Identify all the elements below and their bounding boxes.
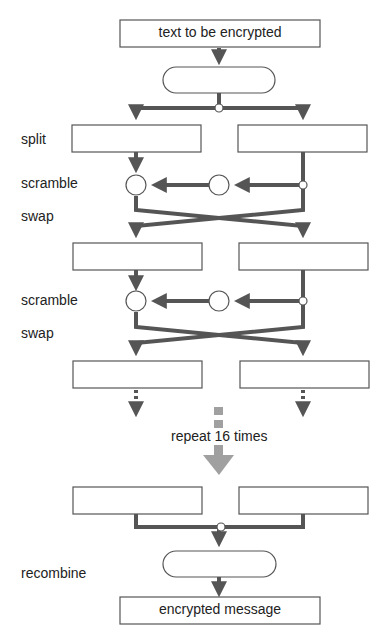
- pill-recombine: [163, 551, 276, 577]
- combine-node: [217, 523, 225, 531]
- right-half-box-final: [239, 487, 368, 514]
- left-half-box-3: [73, 361, 202, 388]
- split-node: [215, 104, 223, 112]
- step-label-recombine: recombine: [21, 565, 86, 581]
- scramble-combine-circle-2: [126, 291, 146, 311]
- pill-initial: [163, 67, 275, 93]
- right-half-box-3: [240, 361, 369, 388]
- flow-diagram: [0, 0, 390, 642]
- right-half-box-2: [239, 243, 368, 270]
- step-label-scramble-2: scramble: [21, 292, 78, 308]
- input-box-label: text to be encrypted: [120, 24, 320, 40]
- scramble-function-circle-1: [209, 175, 229, 195]
- branch-node-1: [299, 181, 307, 189]
- step-label-swap-1: swap: [21, 208, 54, 224]
- left-half-box-1: [72, 125, 201, 152]
- left-half-box-2: [73, 243, 202, 270]
- scramble-combine-circle-1: [126, 175, 146, 195]
- branch-node-2: [299, 297, 307, 305]
- left-half-box-final: [73, 487, 202, 514]
- step-label-swap-2: swap: [21, 325, 54, 341]
- scramble-function-circle-2: [209, 291, 229, 311]
- repeat-label: repeat 16 times: [171, 428, 268, 444]
- right-half-box-1: [238, 125, 367, 152]
- step-label-scramble-1: scramble: [21, 175, 78, 191]
- step-label-split: split: [21, 131, 46, 147]
- output-box-label: encrypted message: [120, 601, 320, 617]
